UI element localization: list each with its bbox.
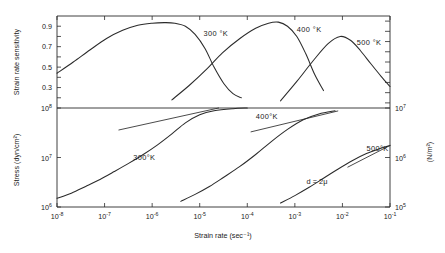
lower-x-tick-label: 10-4 [241, 211, 254, 221]
lower-curves [57, 108, 390, 203]
lower-series-labels: 300°K400°K500°K [133, 112, 388, 162]
upper-curve-label-2: 400 °K [297, 25, 322, 34]
lower-frame [57, 108, 390, 207]
lower-y-tick-label-right: 106 [395, 153, 406, 163]
lower-x-tick-label: 10-7 [98, 211, 111, 221]
upper-y-axis-title: Strain rate sensitivity [12, 28, 21, 95]
two-panel-plot: 0.30.50.70.9 300 °K400 °K500 °K Strain r… [0, 0, 445, 253]
lower-x-axis-title: Strain rate (sec⁻¹) [194, 231, 252, 240]
upper-x-ticks [57, 16, 390, 20]
lower-y-ticks [57, 108, 61, 207]
lower-x-tick-label: 10-6 [146, 211, 159, 221]
lower-y-tick-label-right: 107 [395, 103, 406, 113]
lower-y-ticks-right [385, 108, 390, 207]
lower-curve-label-3: 500°K [366, 144, 388, 153]
upper-y-tick-label: 0.9 [42, 22, 52, 31]
upper-curve-label-1: 300 °K [203, 29, 228, 38]
lower-x-tick-label: 10-8 [51, 211, 64, 221]
lower-x-tick-label: 10-3 [289, 211, 302, 221]
upper-y-tick-label: 0.7 [42, 42, 52, 51]
lower-y-tick-labels: 106107108 [41, 103, 52, 212]
lower-y-axis-title: Stress (dyn/cm²) [12, 134, 21, 187]
lower-tangent-segments [119, 108, 390, 167]
upper-y-tick-labels: 0.30.50.70.9 [42, 22, 52, 92]
lower-x-tick-labels: 10-810-710-610-510-410-310-210-1 [51, 211, 397, 221]
lower-y-tick-label: 107 [41, 153, 52, 163]
specimen-size-annotation: d = 2μ [307, 177, 328, 186]
upper-curve-label-3: 500 °K [357, 38, 382, 47]
lower-y-tick-label: 106 [41, 202, 52, 212]
lower-x-ticks [57, 203, 390, 207]
lower-y-axis-title-right: (N/m²) [425, 142, 434, 162]
upper-y-tick-label: 0.3 [42, 83, 52, 92]
lower-curve-label-1: 300°K [133, 153, 155, 162]
lower-x-tick-label: 10-5 [193, 211, 206, 221]
figure-container: 0.30.50.70.9 300 °K400 °K500 °K Strain r… [0, 0, 445, 253]
lower-panel: 10-810-710-610-510-410-310-210-1 1061071… [12, 103, 434, 240]
lower-x-tick-label: 10-2 [336, 211, 349, 221]
lower-curve-2 [181, 111, 335, 202]
lower-y-tick-label: 108 [41, 103, 52, 113]
lower-x-tick-label: 10-1 [384, 211, 397, 221]
lower-y-tick-labels-right: 105106107 [395, 103, 406, 212]
lower-y-tick-label-right: 105 [395, 202, 406, 212]
upper-y-tick-label: 0.5 [42, 63, 52, 72]
tangent-300 [119, 108, 219, 130]
lower-curve-label-2: 400°K [256, 112, 278, 121]
upper-panel: 0.30.50.70.9 300 °K400 °K500 °K Strain r… [12, 16, 390, 108]
